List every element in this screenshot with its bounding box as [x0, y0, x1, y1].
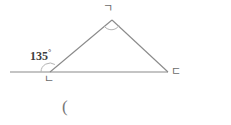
stray-parenthesis-text: ( [62, 98, 68, 115]
geometry-figure: ㄱ ㄴ ㄷ 135° ( [0, 0, 231, 125]
angle-value-text: 135 [30, 49, 48, 63]
degree-symbol: ° [48, 48, 51, 57]
exterior-angle-measure-label: 135° [30, 49, 51, 62]
apex-angle-arc-mark [105, 26, 120, 30]
triangle-left-side-segment [50, 20, 112, 72]
exterior-angle-arc-mark [41, 63, 55, 72]
vertex-label-bottom-right: ㄷ [171, 66, 181, 77]
vertex-label-bottom-left: ㄴ [44, 74, 54, 85]
triangle-right-side-segment [112, 20, 168, 72]
vertex-label-apex: ㄱ [103, 3, 113, 14]
